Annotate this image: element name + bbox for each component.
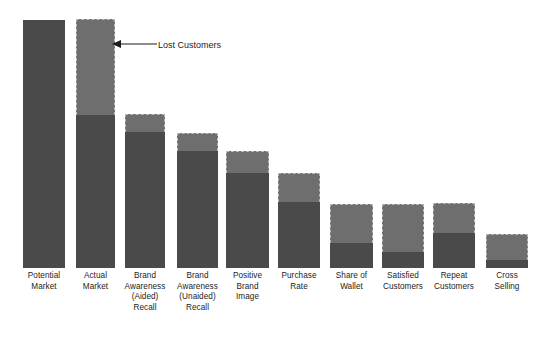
bar-segment-retained[interactable] — [278, 202, 320, 268]
chart-plot-area: Potential MarketActual MarketBrand Aware… — [0, 0, 552, 341]
bar-column[interactable] — [382, 204, 424, 268]
bar-column[interactable] — [76, 19, 115, 268]
bar-segment-retained[interactable] — [177, 151, 218, 268]
bar-category-label: Repeat Customers — [425, 271, 483, 292]
bar-column[interactable] — [226, 151, 269, 268]
bar-segment-lost[interactable] — [278, 173, 320, 202]
bar-segment-retained[interactable] — [330, 243, 373, 268]
bar-segment-lost[interactable] — [486, 234, 528, 260]
bar-column[interactable] — [278, 173, 320, 268]
bar-segment-lost[interactable] — [226, 151, 269, 173]
bar-segment-retained[interactable] — [125, 132, 165, 268]
bar-category-label: Brand Awareness (Aided) Recall — [117, 271, 173, 313]
bar-column[interactable] — [23, 20, 65, 268]
customer-funnel-chart: Potential MarketActual MarketBrand Aware… — [0, 0, 552, 341]
bar-category-label: Purchase Rate — [270, 271, 328, 292]
bar-segment-retained[interactable] — [23, 20, 65, 268]
bar-column[interactable] — [330, 204, 373, 268]
bar-segment-retained[interactable] — [486, 260, 528, 268]
bar-category-label: Cross Selling — [478, 271, 536, 292]
bar-segment-lost[interactable] — [76, 19, 115, 115]
bar-segment-retained[interactable] — [226, 173, 269, 268]
bar-category-label: Satisfied Customers — [374, 271, 432, 292]
lost-customers-arrow-icon — [112, 38, 160, 50]
bar-category-label: Actual Market — [68, 271, 123, 292]
bar-segment-lost[interactable] — [125, 114, 165, 132]
bar-segment-lost[interactable] — [177, 133, 218, 151]
bar-column[interactable] — [486, 234, 528, 268]
bar-category-label: Potential Market — [15, 271, 73, 292]
bar-segment-retained[interactable] — [382, 252, 424, 268]
bar-column[interactable] — [177, 133, 218, 268]
bar-column[interactable] — [433, 203, 475, 268]
bar-category-label: Positive Brand Image — [218, 271, 277, 303]
bar-segment-lost[interactable] — [330, 204, 373, 243]
bar-category-label: Share of Wallet — [322, 271, 381, 292]
lost-customers-annotation-label: Lost Customers — [158, 40, 221, 51]
bar-segment-lost[interactable] — [433, 203, 475, 233]
bar-segment-retained[interactable] — [76, 115, 115, 268]
bar-column[interactable] — [125, 114, 165, 268]
bar-segment-lost[interactable] — [382, 204, 424, 252]
bar-segment-retained[interactable] — [433, 233, 475, 268]
